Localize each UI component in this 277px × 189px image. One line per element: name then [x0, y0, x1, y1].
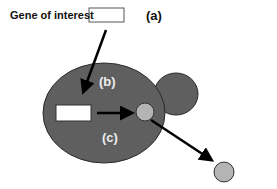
internal-vesicle [136, 103, 154, 121]
secretion-arrow [151, 120, 210, 159]
gene-of-interest-label: Gene of interest [10, 9, 94, 21]
inserted-gene-box [56, 105, 91, 121]
label-b: (b) [99, 74, 116, 89]
label-a: (a) [146, 8, 162, 23]
yeast-expression-diagram [0, 0, 277, 189]
secreted-vesicle [214, 162, 234, 182]
label-c: (c) [102, 130, 118, 145]
gene-box [89, 8, 124, 22]
